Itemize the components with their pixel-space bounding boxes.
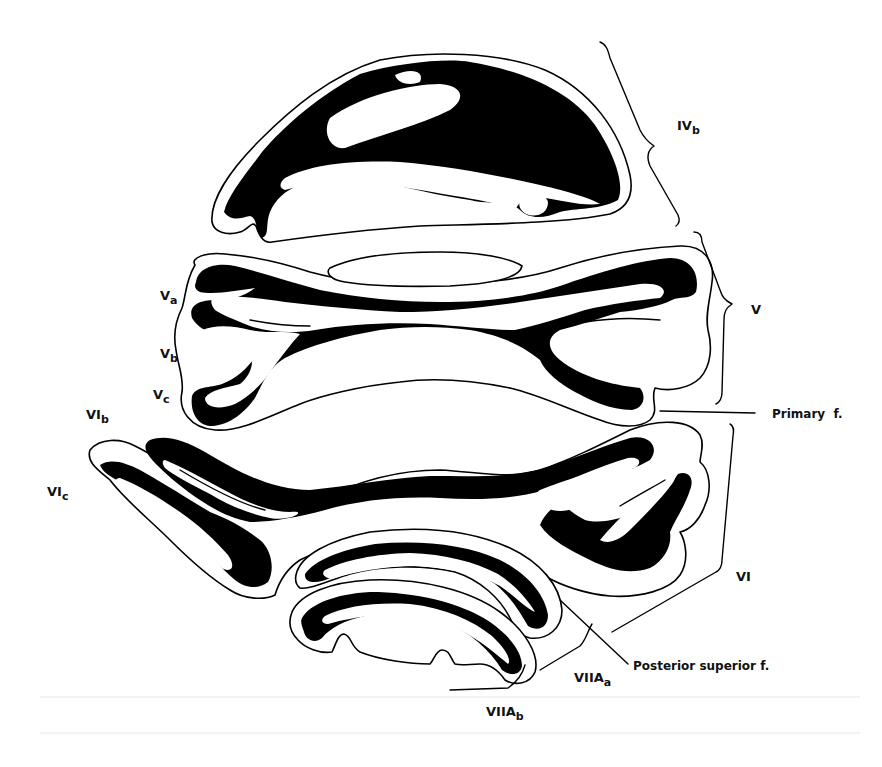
label-lobule-viiab: VIIAb (486, 705, 524, 722)
label-subscript: b (516, 710, 524, 723)
label-lobule-vi: VI (736, 570, 751, 583)
label-base: V (153, 387, 163, 402)
label-lobule-vb: Vb (160, 347, 178, 364)
label-subscript: b (101, 413, 109, 426)
label-base: V (160, 346, 170, 361)
posterior-superior-fissure-leader-line (560, 600, 628, 664)
label-subscript: c (163, 393, 170, 406)
label-posterior-superior-fissure: Posterior superior f. (633, 660, 769, 672)
label-subscript: b (692, 124, 700, 137)
label-base: VIIA (574, 670, 604, 685)
label-lobule-ivb: IVb (677, 119, 700, 136)
label-lobule-v: V (751, 303, 761, 316)
label-base: IV (677, 118, 692, 133)
label-base: V (751, 302, 761, 317)
lobule-v-drawing (175, 246, 713, 430)
label-lobule-va: Va (160, 289, 178, 306)
label-lobule-vic: VIc (47, 485, 68, 502)
label-base: VI (47, 484, 62, 499)
label-subscript: b (170, 352, 178, 365)
label-base: V (160, 288, 170, 303)
label-lobule-vc: Vc (153, 388, 170, 405)
label-lobule-viiaa: VIIAa (574, 671, 611, 688)
label-base: VI (86, 407, 101, 422)
label-subscript: c (62, 490, 69, 503)
label-primary-fissure: Primary f. (772, 408, 843, 420)
label-base: VI (736, 569, 751, 584)
label-base: VIIA (486, 704, 516, 719)
label-lobule-vib: VIb (86, 408, 109, 425)
cerebellum-section-diagram (0, 0, 882, 767)
label-subscript: a (604, 676, 611, 689)
lobule-ivb-drawing (212, 54, 631, 242)
lobule-vi-drawing (89, 422, 709, 598)
label-subscript: a (170, 294, 177, 307)
primary-fissure-leader-line (660, 411, 755, 413)
